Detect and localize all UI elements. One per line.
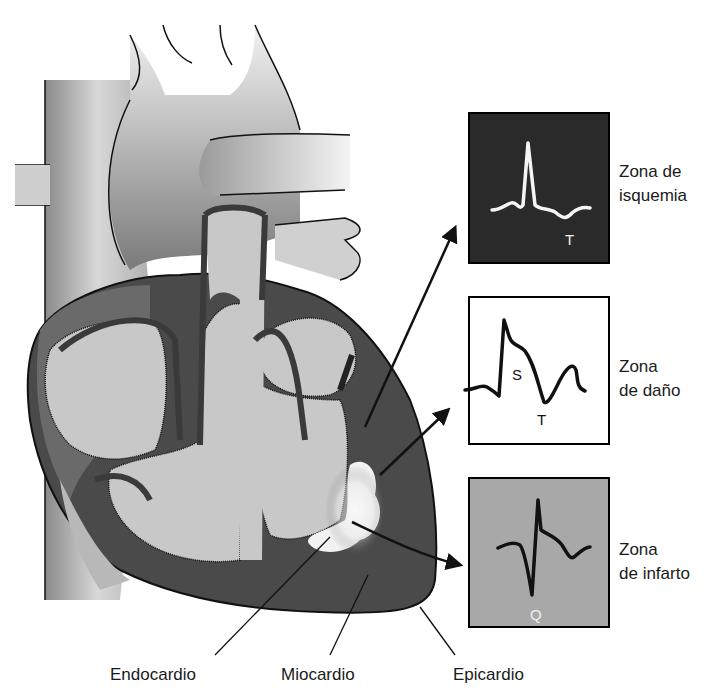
- label-miocardio: Miocardio: [281, 664, 355, 686]
- ecg-box-ischemia: T: [469, 113, 609, 263]
- zone-label-infarto: Zona de infarto: [619, 538, 690, 586]
- ecg-marker-q: Q: [530, 606, 542, 623]
- zone-label-isquemia-line1: Zona de: [619, 160, 687, 184]
- ecg-box-infarct: Q: [469, 478, 609, 627]
- zone-label-dano-line1: Zona: [619, 355, 680, 379]
- label-endocardio: Endocardio: [110, 664, 196, 686]
- heart-ischemia-diagram: T S T Q: [0, 0, 720, 700]
- zone-label-isquemia-line2: isquemia: [619, 184, 687, 208]
- ecg-marker-s: S: [512, 366, 522, 383]
- label-epicardio: Epicardio: [453, 664, 524, 686]
- ecg-marker-t-ischemia: T: [565, 231, 574, 248]
- ecg-box-damage: S T: [465, 297, 609, 444]
- ecg-marker-t-damage: T: [537, 411, 546, 428]
- zone-label-isquemia: Zona de isquemia: [619, 160, 687, 208]
- zone-label-infarto-line1: Zona: [619, 538, 690, 562]
- zone-label-dano-line2: de daño: [619, 379, 680, 403]
- zone-label-dano: Zona de daño: [619, 355, 680, 403]
- zone-label-infarto-line2: de infarto: [619, 562, 690, 586]
